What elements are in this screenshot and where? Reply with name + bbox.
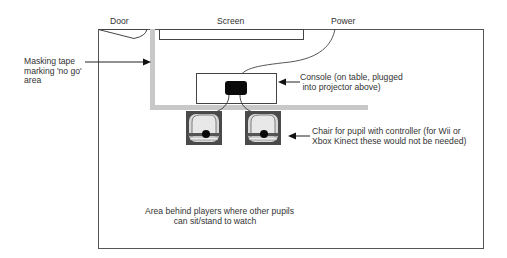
chair-label-line-2: Xbox Kinect these would not be needed) xyxy=(312,137,466,147)
chair-label: Chair for pupil with controller (for Wii… xyxy=(312,127,466,146)
console-label: Console (on table, plugged into projecto… xyxy=(300,73,403,92)
console-label-line-2: into projector above) xyxy=(300,83,403,93)
chair-right-icon xyxy=(245,111,281,145)
screen-label: Screen xyxy=(217,17,244,27)
masking-tape-label: Masking tape marking 'no go' area xyxy=(24,57,82,86)
screen xyxy=(160,30,304,40)
masking-tape-label-line-3: area xyxy=(24,76,82,86)
masking-tape-arrow-icon xyxy=(85,59,151,66)
audience-area-label: Area behind players where other pupils c… xyxy=(145,207,285,226)
chair-left-icon xyxy=(186,111,222,145)
console-icon xyxy=(225,81,247,95)
audience-area-label-line-2: can sit/stand to watch xyxy=(145,217,285,227)
chair-arrow-icon xyxy=(288,133,310,140)
console-arrow-icon xyxy=(278,79,300,86)
power-label: Power xyxy=(331,17,355,27)
door-label: Door xyxy=(110,17,129,27)
